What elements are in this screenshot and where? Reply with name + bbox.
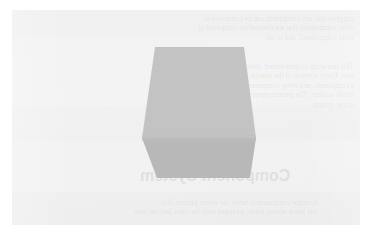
scanned-page-panel: suggests that any component can be compo… <box>12 10 360 225</box>
top-paragraph-line: other components that are themselves com… <box>139 23 354 32</box>
cube-figure <box>130 37 264 179</box>
cube-icon <box>130 37 264 179</box>
bottom-paragraph: A single component is never the whole pi… <box>18 198 318 217</box>
top-paragraph-line: suggests that any component can be compo… <box>139 14 354 23</box>
cube-shading-band <box>142 135 256 141</box>
cube-top-face <box>142 47 256 138</box>
bottom-paragraph-line: A single component is never the whole pi… <box>18 198 318 207</box>
bottom-paragraph-line: one piece among many, arranged with the … <box>18 207 318 216</box>
screenshot-root: suggests that any component can be compo… <box>0 0 375 239</box>
cube-front-face <box>142 138 256 178</box>
